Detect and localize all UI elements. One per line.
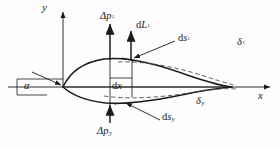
delta-p-upper-label: Δpᴸ [100,11,115,22]
delta-lower-subscript: y [201,99,204,106]
delta-p-upper-text: Δp [100,10,111,21]
delta-upper-label: δᴸ [237,37,245,48]
dx-label: ddxx [112,81,122,92]
delta-p-upper-subscript: ᴸ [111,14,114,21]
y-axis-label: y [42,2,47,13]
alpha-label: α [24,81,30,92]
delta-lower-label: δy [196,96,204,107]
delta-p-lower-subscript: y [108,129,111,136]
ds-lower-subscript: y [171,115,174,122]
boundary-layer-upper-dashed [118,62,234,85]
ds-upper-subscript: ᴸ [187,36,190,43]
ds-lower-leader [126,103,160,120]
delta-p-lower-label: Δpy [97,126,112,137]
airfoil-upper-surface [63,58,232,87]
ds-upper-leader [134,41,175,58]
delta-p-lower-text: Δp [97,125,108,136]
ds-lower-label: dsy [162,112,175,123]
x-axis-label: x [258,90,263,101]
dL-upper-label: dLᴸ [136,20,150,31]
delta-upper-subscript: ᴸ [242,40,245,47]
freestream-arrow [32,72,61,85]
ds-upper-label: dsᴸ [178,33,190,44]
airfoil-lower-surface [63,87,232,103]
dL-upper-subscript: ᴸ [147,23,150,30]
figure-canvas: y x Δpᴸ dLᴸ dsᴸ δᴸ ddxx dsy Δpy δy α [0,0,280,147]
dx-d: d [112,80,117,91]
